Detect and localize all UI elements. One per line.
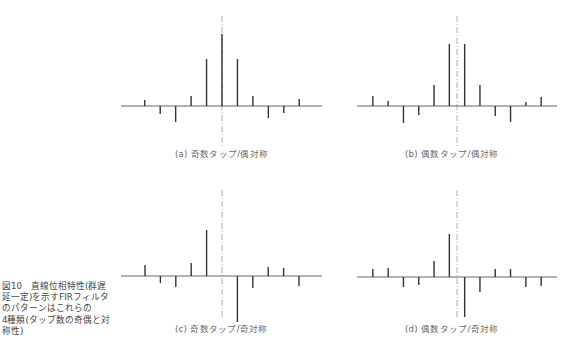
panel-c-odd-taps-odd-symmetry	[121, 190, 322, 322]
panel-a-caption: (a) 奇数タップ/偶対称	[175, 147, 268, 159]
panel-b-caption: (b) 偶数タップ/偶対称	[405, 147, 499, 159]
figure-caption-line-1: 図10 直線位相特性(群遅	[2, 281, 114, 292]
panel-a-odd-taps-even-symmetry	[121, 16, 322, 148]
panel-b-even-taps-even-symmetry	[357, 16, 557, 148]
panel-c-caption: (c) 奇数タップ/奇対称	[175, 322, 268, 334]
figure-caption-line-4: 4種類(タップ数の奇偶と対	[2, 315, 114, 326]
panel-d-even-taps-odd-symmetry	[357, 190, 557, 318]
figure-caption-line-5: 称性)	[2, 326, 114, 337]
figure-caption-line-2: 延一定)を示すFIRフィルタ	[2, 292, 114, 303]
panel-d-caption: (d) 偶数タップ/奇対称	[405, 322, 499, 334]
figure-caption: 図10 直線位相特性(群遅 延一定)を示すFIRフィルタ のパターンはこれらの …	[2, 281, 114, 337]
figure-caption-line-3: のパターンはこれらの	[2, 303, 114, 314]
